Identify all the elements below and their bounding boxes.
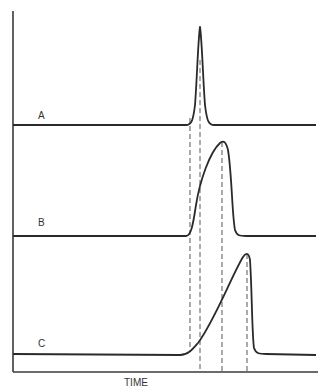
x-axis-label: TIME [124,377,148,388]
trace-b [13,142,316,236]
trace-c [13,254,316,355]
elution-profile-diagram: A B C TIME [0,0,326,392]
trace-label-c: C [38,338,45,349]
trace-label-b: B [38,217,45,228]
trace-a [13,27,316,125]
trace-label-a: A [38,110,45,121]
